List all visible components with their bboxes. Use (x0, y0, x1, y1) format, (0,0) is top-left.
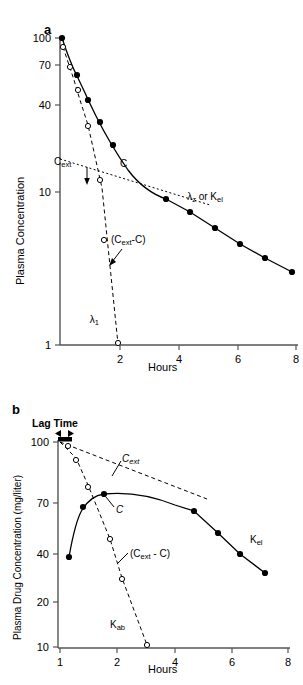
panel-b-cext-leader (112, 461, 121, 476)
panel-b-ytick-0: 100 (31, 436, 49, 448)
panel-a-ytick-1: 70 (39, 59, 51, 71)
panel-a-ytick-4: 1 (45, 339, 51, 351)
panel-b-label-c: C (116, 504, 124, 515)
panel-b-xtick-4: 8 (285, 656, 291, 668)
panel-b-plot: 100 70 40 20 10 1 2 4 6 8 (0, 380, 303, 685)
panel-b-label-cext-minus-c: (Cext - C) (130, 548, 170, 561)
panel-a-residual-line (63, 47, 118, 344)
panel-b-label-kel: Kel (250, 534, 263, 547)
panel-b-ytick-2: 40 (37, 548, 49, 560)
panel-a-xtick-1: 4 (176, 353, 182, 365)
panel-b-ytick-1: 70 (37, 497, 49, 509)
panel-a-ytick-2: 40 (39, 99, 51, 111)
panel-b-c-curve (69, 493, 265, 573)
panel-a-label-cext: Cext (54, 156, 72, 169)
panel-b-label-kab: Kab (110, 619, 125, 632)
panel-b-lag-arrow-right (68, 430, 74, 437)
panel-b-x-ticks: 1 2 4 6 8 (57, 648, 291, 668)
panel-b-xtick-2: 4 (172, 656, 178, 668)
panel-a-xtick-2: 6 (235, 353, 241, 365)
panel-a: a Plasma Concentration Hours 100 70 40 1… (0, 0, 303, 380)
panel-b-xtick-3: 6 (229, 656, 235, 668)
panel-a-ytick-3: 10 (39, 186, 51, 198)
panel-a-ytick-0: 100 (33, 32, 51, 44)
panel-a-xtick-0: 2 (117, 353, 123, 365)
panel-a-label-lambda-z-kel: λz or Kel (187, 191, 223, 204)
panel-b-xtick-1: 2 (114, 656, 120, 668)
panel-a-cext-arrow-head (84, 178, 90, 185)
panel-a-label-lambda-1: λ1 (90, 314, 99, 327)
panel-b-y-ticks: 100 70 40 20 10 (31, 436, 58, 653)
panel-b-c-points (66, 491, 268, 576)
panel-a-label-c: C (120, 158, 127, 169)
panel-a-label-cext-minus-c: (Cext-C) (111, 234, 145, 247)
panel-b-lag-arrow-left (55, 430, 61, 437)
panel-a-residual-points (60, 44, 120, 345)
panel-a-y-ticks: 100 70 40 10 1 (33, 32, 60, 351)
figure-container: a Plasma Concentration Hours 100 70 40 1… (0, 0, 303, 685)
panel-b-c-leader (106, 497, 114, 507)
panel-a-x-ticks: 2 4 6 8 (117, 345, 299, 365)
panel-a-plot: 100 70 40 10 1 2 4 6 8 (0, 0, 303, 380)
panel-b-label-cext: Cext (122, 453, 140, 466)
panel-b-lag-time-bar (58, 437, 72, 442)
panel-b-residual-points (65, 443, 149, 647)
panel-b-ytick-3: 20 (37, 596, 49, 608)
panel-a-c-curve (62, 38, 292, 272)
panel-b: b Lag Time Plasma Drug Concentration (mg… (0, 380, 303, 685)
panel-b-xtick-0: 1 (57, 656, 63, 668)
panel-b-residual-line (60, 442, 147, 645)
panel-b-residual-leader (117, 553, 128, 564)
panel-a-xtick-3: 8 (293, 353, 299, 365)
panel-b-ytick-4: 10 (37, 641, 49, 653)
